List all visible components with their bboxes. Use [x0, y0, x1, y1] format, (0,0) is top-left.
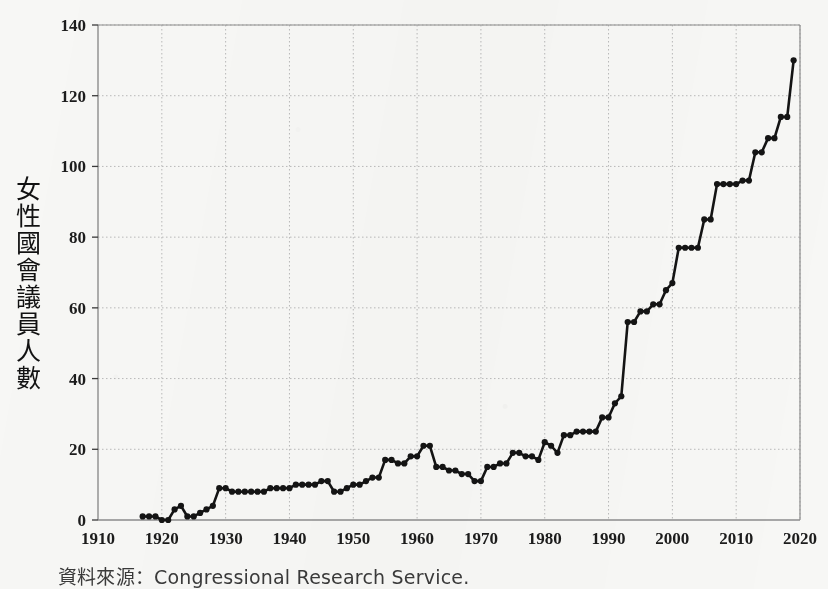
data-point-marker — [561, 432, 567, 438]
series-line — [143, 60, 794, 520]
data-point-marker — [452, 467, 458, 473]
data-point-marker — [337, 489, 343, 495]
data-point-marker — [720, 181, 726, 187]
data-point-marker — [491, 464, 497, 470]
data-point-marker — [746, 177, 752, 183]
data-point-marker — [401, 460, 407, 466]
x-tick-label: 1950 — [336, 529, 370, 545]
data-point-marker — [733, 181, 739, 187]
data-point-marker — [363, 478, 369, 484]
data-point-marker — [516, 450, 522, 456]
data-point-marker — [644, 308, 650, 314]
data-point-marker — [478, 478, 484, 484]
data-point-marker — [427, 443, 433, 449]
data-point-marker — [529, 453, 535, 459]
gridlines — [98, 25, 800, 520]
x-tick-label: 1980 — [528, 529, 562, 545]
data-point-marker — [408, 453, 414, 459]
data-point-marker — [599, 414, 605, 420]
data-point-marker — [676, 245, 682, 251]
data-point-marker — [223, 485, 229, 491]
data-point-marker — [503, 460, 509, 466]
data-series — [140, 57, 797, 523]
data-point-marker — [388, 457, 394, 463]
data-point-marker — [420, 443, 426, 449]
data-point-marker — [701, 216, 707, 222]
y-tick-label: 40 — [69, 370, 86, 389]
data-point-marker — [605, 414, 611, 420]
data-point-marker — [395, 460, 401, 466]
y-axis-label-char: 女 — [8, 176, 48, 203]
data-point-marker — [280, 485, 286, 491]
data-point-marker — [306, 482, 312, 488]
data-point-marker — [325, 478, 331, 484]
y-tick-label: 120 — [61, 87, 87, 106]
plot-border — [98, 25, 800, 520]
y-tick-label: 0 — [78, 511, 87, 530]
data-point-marker — [759, 149, 765, 155]
data-point-marker — [146, 513, 152, 519]
data-point-marker — [242, 489, 248, 495]
data-point-marker — [191, 513, 197, 519]
data-point-marker — [586, 429, 592, 435]
data-point-marker — [657, 301, 663, 307]
data-point-marker — [574, 429, 580, 435]
y-axis-label-char: 國 — [8, 230, 48, 257]
x-tick-label: 2020 — [783, 529, 817, 545]
data-point-marker — [650, 301, 656, 307]
data-point-marker — [357, 482, 363, 488]
y-axis-label-char: 議 — [8, 284, 48, 311]
data-point-marker — [669, 280, 675, 286]
x-tick-label: 1970 — [464, 529, 498, 545]
data-point-marker — [510, 450, 516, 456]
data-point-marker — [631, 319, 637, 325]
data-point-marker — [714, 181, 720, 187]
data-point-marker — [433, 464, 439, 470]
data-point-marker — [752, 149, 758, 155]
data-point-marker — [771, 135, 777, 141]
data-point-marker — [593, 429, 599, 435]
data-point-marker — [791, 57, 797, 63]
data-point-marker — [522, 453, 528, 459]
data-point-marker — [440, 464, 446, 470]
data-point-marker — [197, 510, 203, 516]
data-point-marker — [548, 443, 554, 449]
data-point-marker — [235, 489, 241, 495]
data-point-marker — [203, 506, 209, 512]
data-point-marker — [216, 485, 222, 491]
data-point-marker — [350, 482, 356, 488]
data-point-marker — [293, 482, 299, 488]
data-point-marker — [178, 503, 184, 509]
data-point-marker — [739, 177, 745, 183]
y-axis-label-char: 員 — [8, 311, 48, 338]
line-chart-svg: 0204060801001201401910192019301940195019… — [0, 0, 828, 545]
data-point-marker — [261, 489, 267, 495]
y-tick-label: 20 — [69, 440, 86, 459]
data-point-marker — [625, 319, 631, 325]
data-point-marker — [318, 478, 324, 484]
data-point-marker — [312, 482, 318, 488]
x-tick-label: 1960 — [400, 529, 434, 545]
y-tick-label: 140 — [61, 16, 87, 35]
data-point-marker — [344, 485, 350, 491]
data-point-marker — [446, 467, 452, 473]
data-point-marker — [459, 471, 465, 477]
x-tick-label: 2000 — [655, 529, 689, 545]
data-point-marker — [778, 114, 784, 120]
data-point-marker — [376, 474, 382, 480]
data-point-marker — [331, 489, 337, 495]
y-tick-label: 100 — [61, 157, 87, 176]
data-point-marker — [682, 245, 688, 251]
data-point-marker — [254, 489, 260, 495]
y-axis-label-char: 會 — [8, 257, 48, 284]
data-point-marker — [465, 471, 471, 477]
data-point-marker — [369, 474, 375, 480]
data-point-marker — [484, 464, 490, 470]
x-tick-label: 1920 — [145, 529, 179, 545]
data-point-marker — [580, 429, 586, 435]
data-point-marker — [248, 489, 254, 495]
data-point-marker — [554, 450, 560, 456]
data-point-marker — [140, 513, 146, 519]
data-point-marker — [688, 245, 694, 251]
y-tick-label: 80 — [69, 228, 86, 247]
